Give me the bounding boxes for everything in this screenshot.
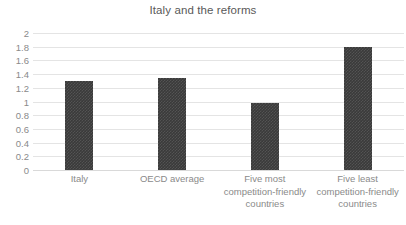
axis-baseline bbox=[33, 170, 404, 171]
x-category-label: Five most competition-friendly countries bbox=[219, 173, 312, 211]
bar bbox=[251, 103, 279, 170]
y-axis: 21.81.61.41.210.80.60.40.20 bbox=[0, 33, 29, 170]
gridline bbox=[33, 33, 404, 34]
bar-chart: Italy and the reforms 21.81.61.41.210.80… bbox=[0, 0, 406, 225]
x-category-label: OECD average bbox=[126, 173, 219, 186]
bar bbox=[158, 78, 186, 170]
y-tick-label: 0.6 bbox=[0, 124, 29, 133]
y-tick-label: 0 bbox=[0, 166, 29, 175]
x-category-label: Italy bbox=[33, 173, 126, 186]
y-tick-label: 2 bbox=[0, 29, 29, 38]
x-category-label: Five least competition-friendly countrie… bbox=[311, 173, 404, 211]
y-tick-label: 0.4 bbox=[0, 138, 29, 147]
y-tick-label: 1 bbox=[0, 97, 29, 106]
y-tick-label: 1.8 bbox=[0, 42, 29, 51]
y-tick-label: 0.8 bbox=[0, 111, 29, 120]
y-tick-label: 1.6 bbox=[0, 56, 29, 65]
bar bbox=[65, 81, 93, 170]
chart-title: Italy and the reforms bbox=[0, 4, 406, 16]
plot-area bbox=[33, 33, 404, 170]
y-tick-label: 0.2 bbox=[0, 152, 29, 161]
x-axis: ItalyOECD averageFive most competition-f… bbox=[33, 173, 404, 223]
y-tick-label: 1.4 bbox=[0, 70, 29, 79]
bar bbox=[344, 47, 372, 170]
y-tick-label: 1.2 bbox=[0, 83, 29, 92]
